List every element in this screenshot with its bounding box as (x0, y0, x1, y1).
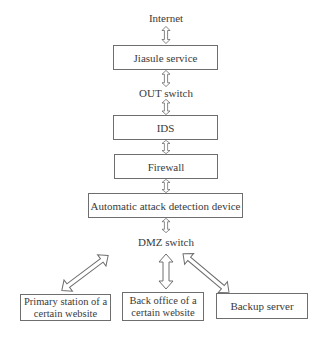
primary-station-line1: Primary station of a (24, 296, 107, 308)
jiasule-service-label: Jiasule service (134, 52, 198, 64)
jiasule-service-box: Jiasule service (113, 45, 218, 70)
backup-server-label: Backup server (230, 300, 293, 312)
internet-label: Internet (116, 12, 216, 24)
firewall-label: Firewall (148, 161, 185, 173)
attack-detection-box: Automatic attack detection device (88, 193, 243, 218)
firewall-box: Firewall (114, 154, 218, 179)
arrow-dmz-backoffice (159, 254, 173, 289)
ids-label: IDS (157, 122, 175, 134)
dmz-switch-label: DMZ switch (116, 236, 216, 248)
back-office-line2: certain website (131, 307, 194, 319)
back-office-line1: Back office of a (129, 295, 196, 307)
arrow-dmz-primary (58, 250, 113, 296)
primary-station-line2: certain website (34, 308, 97, 320)
arrow-internet-jiasule (162, 26, 170, 43)
attack-detection-label: Automatic attack detection device (91, 200, 241, 212)
out-switch-label: OUT switch (116, 87, 216, 99)
primary-station-box: Primary station of a certain website (20, 294, 111, 321)
arrow-attackdetection-dmz (162, 218, 170, 232)
arrow-ids-firewall (162, 140, 170, 153)
arrow-outswitch-ids (162, 99, 170, 114)
backup-server-box: Backup server (216, 293, 308, 319)
arrow-jiasule-outswitch (162, 70, 170, 86)
ids-box: IDS (113, 115, 218, 140)
arrow-firewall-attackdetection (162, 179, 170, 192)
back-office-box: Back office of a certain website (122, 292, 204, 321)
arrow-dmz-backup (179, 248, 234, 297)
